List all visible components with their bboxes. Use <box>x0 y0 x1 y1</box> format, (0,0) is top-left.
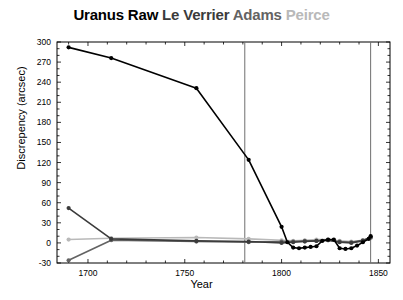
data-point <box>355 243 359 247</box>
data-point <box>349 246 353 250</box>
y-tick-label: 210 <box>37 97 51 107</box>
data-point <box>309 245 313 249</box>
data-point <box>320 239 324 243</box>
data-point <box>338 240 342 244</box>
data-point <box>361 240 365 244</box>
y-tick-label: 30 <box>42 218 52 228</box>
y-axis-label: Discrepency (arcsec) <box>15 38 27 198</box>
data-point <box>297 246 301 250</box>
axes <box>57 42 390 263</box>
data-point <box>332 237 336 241</box>
data-point <box>247 158 251 162</box>
data-point <box>303 239 307 243</box>
data-point <box>291 245 295 249</box>
data-point <box>67 237 71 241</box>
data-series <box>67 45 373 262</box>
x-tick-label: 1800 <box>272 268 291 278</box>
data-point <box>67 45 71 49</box>
data-point <box>343 247 347 251</box>
data-point <box>303 245 307 249</box>
data-point <box>349 241 353 245</box>
data-point <box>369 234 373 238</box>
data-point <box>194 239 198 243</box>
data-point <box>291 240 295 244</box>
x-tick-label: 1750 <box>175 268 194 278</box>
x-axis-label: Year <box>0 278 403 290</box>
y-tick-label: 300 <box>37 37 51 47</box>
data-point <box>109 56 113 60</box>
data-point <box>247 239 251 243</box>
data-point <box>326 237 330 241</box>
y-tick-label: 240 <box>37 77 51 87</box>
data-point <box>194 86 198 90</box>
y-tick-label: 180 <box>37 117 51 127</box>
y-tick-label: 60 <box>42 198 52 208</box>
y-tick-label: 120 <box>37 158 51 168</box>
chart-figure: Uranus Raw Le Verrier Adams Peirce -3003… <box>0 0 403 300</box>
data-point <box>285 240 289 244</box>
y-tick-label: 270 <box>37 57 51 67</box>
data-point <box>67 258 71 262</box>
data-point <box>279 241 283 245</box>
series-uranus-raw <box>67 45 373 251</box>
data-point <box>314 239 318 243</box>
y-tick-label: 0 <box>46 238 51 248</box>
data-point <box>314 244 318 248</box>
reference-lines <box>245 42 371 263</box>
data-point <box>109 237 113 241</box>
x-tick-label: 1700 <box>79 268 98 278</box>
plot-area: -300306090120150180210240270300170017501… <box>0 0 403 300</box>
y-tick-label: 150 <box>37 137 51 147</box>
data-point <box>67 206 71 210</box>
x-tick-label: 1850 <box>369 268 388 278</box>
y-tick-label: 90 <box>42 178 52 188</box>
data-point <box>338 246 342 250</box>
y-tick-label: -30 <box>39 258 52 268</box>
data-point <box>279 225 283 229</box>
